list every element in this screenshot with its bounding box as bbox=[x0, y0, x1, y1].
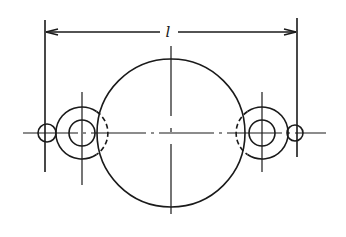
dimension-label: l bbox=[166, 23, 171, 41]
dimension-line bbox=[46, 29, 296, 35]
right-ring-assembly bbox=[236, 92, 288, 172]
left-ring-assembly bbox=[56, 92, 108, 185]
engineering-diagram: l bbox=[0, 0, 346, 237]
